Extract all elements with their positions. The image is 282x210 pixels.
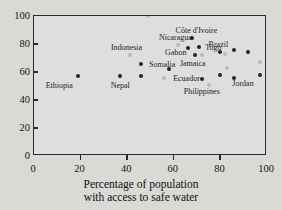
plot-area: EthiopiaIndonesiaSomaliaNepalEcuadorNica… — [33, 15, 266, 155]
x-tick-mark-60 — [173, 155, 175, 160]
y-tick-label-100: 100 — [0, 10, 30, 21]
point-label-ethiopia: Ethiopia — [46, 81, 73, 90]
data-point — [232, 48, 236, 52]
data-point-ethiopia — [76, 74, 80, 78]
data-point — [139, 74, 143, 78]
point-label-gabon: Gabon — [165, 48, 186, 57]
y-tick-mark-80 — [33, 43, 38, 45]
data-point — [146, 15, 150, 18]
x-tick-mark-40 — [126, 155, 128, 160]
point-label-somalia: Somalia — [149, 59, 175, 68]
data-point-nepal — [118, 74, 122, 78]
y-tick-label-80: 80 — [0, 38, 30, 49]
data-point-jordan — [258, 73, 262, 77]
x-tick-mark-80 — [219, 155, 221, 160]
data-point-philippines — [200, 77, 204, 81]
y-tick-mark-20 — [33, 127, 38, 129]
point-label-brazil: Brazil — [209, 40, 229, 49]
y-tick-label-0: 0 — [0, 150, 30, 161]
x-axis-title-line-2: with access to safe water — [0, 191, 282, 204]
data-point-ecuador — [162, 76, 166, 80]
data-point — [200, 53, 204, 57]
data-point — [258, 60, 262, 64]
point-label-ecuador: Ecuador — [173, 73, 200, 82]
point-label-indonesia: Indonesia — [111, 43, 142, 52]
x-tick-label-60: 60 — [168, 163, 179, 174]
data-point-c-te-d-ivoire — [190, 36, 194, 40]
data-point-indonesia — [128, 53, 132, 57]
data-point — [218, 73, 222, 77]
data-point — [225, 66, 229, 70]
x-tick-label-100: 100 — [258, 163, 274, 174]
point-label-jamaica: Jamaica — [180, 59, 206, 68]
data-point-togo — [197, 45, 201, 49]
y-tick-mark-60 — [33, 71, 38, 73]
data-point — [223, 52, 227, 56]
scatter-chart-figure: EthiopiaIndonesiaSomaliaNepalEcuadorNica… — [0, 0, 282, 210]
x-tick-label-40: 40 — [121, 163, 132, 174]
data-point — [207, 83, 211, 87]
data-point — [246, 50, 250, 54]
point-label-c-te-d-ivoire: Côte d'Ivoire — [176, 26, 218, 35]
data-point-brazil — [218, 50, 222, 54]
x-tick-mark-20 — [80, 155, 82, 160]
data-point-jamaica — [193, 53, 197, 57]
y-tick-mark-40 — [33, 99, 38, 101]
x-tick-label-0: 0 — [30, 163, 35, 174]
x-axis-title: Percentage of population with access to … — [0, 178, 282, 204]
y-tick-label-20: 20 — [0, 122, 30, 133]
y-tick-label-60: 60 — [0, 66, 30, 77]
x-tick-label-80: 80 — [214, 163, 225, 174]
x-axis-title-line-1: Percentage of population — [0, 178, 282, 191]
data-point — [167, 67, 171, 71]
point-label-nepal: Nepal — [111, 81, 130, 90]
point-label-philippines: Philippines — [184, 87, 220, 96]
data-point-somalia — [139, 62, 143, 66]
y-tick-label-40: 40 — [0, 94, 30, 105]
point-label-jordan: Jordan — [232, 78, 253, 87]
x-tick-label-20: 20 — [74, 163, 85, 174]
